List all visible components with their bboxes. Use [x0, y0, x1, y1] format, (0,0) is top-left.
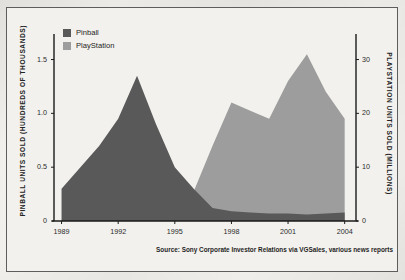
- left-axis-tick-label: 0.5: [21, 162, 47, 171]
- right-axis-tick-label: 30: [362, 55, 388, 64]
- legend-label-pinball: Pinball: [76, 28, 99, 37]
- chart-plot-area: PINBALL UNITS SOLD (HUNDREDS OF THOUSAND…: [7, 8, 399, 273]
- left-axis-tick-label: 0: [21, 216, 47, 225]
- legend-item-pinball: Pinball: [63, 27, 114, 38]
- x-axis-tick-label: 2001: [268, 227, 308, 236]
- legend-swatch-pinball: [63, 29, 71, 37]
- right-axis-tick-label: 10: [362, 162, 388, 171]
- legend-label-playstation: PlayStation: [76, 41, 114, 50]
- left-axis-tick-label: 1.5: [21, 55, 47, 64]
- legend-swatch-playstation: [63, 42, 71, 50]
- left-axis-tick-label: 1.0: [21, 108, 47, 117]
- x-axis-tick-label: 1989: [42, 227, 82, 236]
- screenshot-root: PINBALL UNITS SOLD (HUNDREDS OF THOUSAND…: [0, 0, 405, 280]
- x-axis-tick-label: 2004: [325, 227, 365, 236]
- x-axis-tick-label: 1998: [211, 227, 251, 236]
- x-axis-tick-label: 1992: [98, 227, 138, 236]
- legend-item-playstation: PlayStation: [63, 40, 114, 51]
- x-axis-tick-label: 1995: [155, 227, 195, 236]
- chart-legend: Pinball PlayStation: [63, 27, 114, 53]
- chart-figure-frame: PINBALL UNITS SOLD (HUNDREDS OF THOUSAND…: [6, 7, 398, 272]
- right-axis-tick-label: 20: [362, 108, 388, 117]
- source-note: Source: Sony Corporate Investor Relation…: [7, 246, 393, 253]
- right-axis-tick-label: 0: [362, 216, 388, 225]
